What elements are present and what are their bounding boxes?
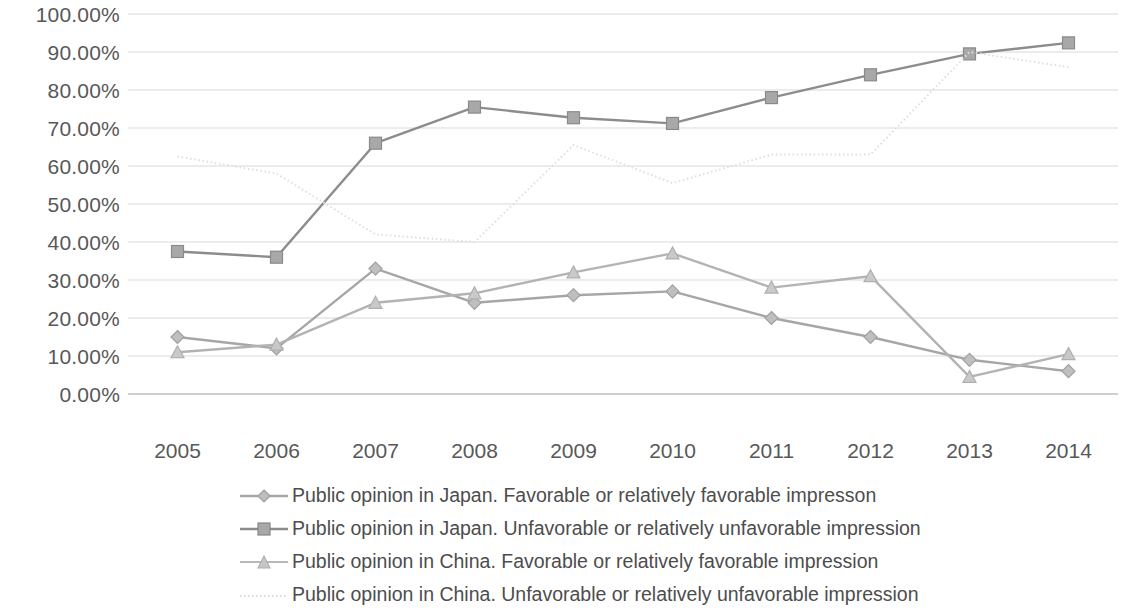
series-line bbox=[178, 52, 1069, 242]
legend-item: Public opinion in China. Unfavorable or … bbox=[238, 581, 919, 608]
x-tick-label: 2008 bbox=[451, 440, 498, 461]
legend-item-label: Public opinion in China. Favorable or re… bbox=[290, 551, 878, 572]
data-point-square bbox=[370, 137, 382, 149]
legend-item-label: Public opinion in Japan. Unfavorable or … bbox=[290, 518, 921, 539]
data-point-square bbox=[172, 246, 184, 258]
series-line bbox=[178, 253, 1069, 377]
data-point-square bbox=[964, 48, 976, 60]
data-point-diamond bbox=[171, 331, 184, 344]
data-point-square bbox=[271, 251, 283, 263]
legend-item: Public opinion in Japan. Unfavorable or … bbox=[238, 515, 921, 542]
legend-item: Public opinion in China. Favorable or re… bbox=[238, 548, 878, 575]
legend-item-label: Public opinion in China. Unfavorable or … bbox=[290, 584, 919, 605]
x-tick-label: 2012 bbox=[847, 440, 894, 461]
data-point-square bbox=[469, 101, 481, 113]
x-tick-label: 2014 bbox=[1045, 440, 1092, 461]
data-point-diamond bbox=[567, 289, 580, 302]
square-marker-icon bbox=[238, 519, 290, 539]
x-tick-label: 2006 bbox=[253, 440, 300, 461]
diamond-marker-icon bbox=[238, 486, 290, 506]
x-tick-label: 2013 bbox=[946, 440, 993, 461]
chart-page: 100.00% 90.00% 80.00% 70.00% 60.00% 50.0… bbox=[0, 0, 1130, 611]
data-point-diamond bbox=[1062, 365, 1075, 378]
data-point-diamond bbox=[963, 353, 976, 366]
data-point-diamond bbox=[765, 312, 778, 325]
dotted-line-marker-icon bbox=[238, 585, 290, 605]
data-point-square bbox=[1063, 37, 1075, 49]
data-point-square bbox=[568, 112, 580, 124]
plot-area: 100.00% 90.00% 80.00% 70.00% 60.00% 50.0… bbox=[0, 0, 1130, 460]
x-tick-label: 2010 bbox=[649, 440, 696, 461]
triangle-marker-icon bbox=[238, 552, 290, 572]
data-point-square bbox=[766, 92, 778, 104]
x-axis-tick-labels: 2005200620072008200920102011201220132014 bbox=[120, 418, 1120, 458]
chart-legend: Public opinion in Japan. Favorable or re… bbox=[0, 470, 1130, 611]
legend-item: Public opinion in Japan. Favorable or re… bbox=[238, 482, 876, 509]
x-tick-label: 2011 bbox=[749, 440, 794, 461]
data-point-triangle bbox=[666, 247, 679, 259]
data-point-square bbox=[865, 69, 877, 81]
chart-plot-svg bbox=[0, 0, 1130, 460]
series-line bbox=[178, 43, 1069, 257]
data-point-diamond bbox=[864, 331, 877, 344]
x-tick-label: 2009 bbox=[550, 440, 597, 461]
x-tick-label: 2005 bbox=[154, 440, 201, 461]
data-point-triangle bbox=[1062, 348, 1075, 360]
legend-item-label: Public opinion in Japan. Favorable or re… bbox=[290, 485, 876, 506]
data-point-diamond bbox=[666, 285, 679, 298]
data-series-layer bbox=[171, 37, 1075, 383]
data-point-square bbox=[667, 117, 679, 129]
x-tick-label: 2007 bbox=[352, 440, 399, 461]
